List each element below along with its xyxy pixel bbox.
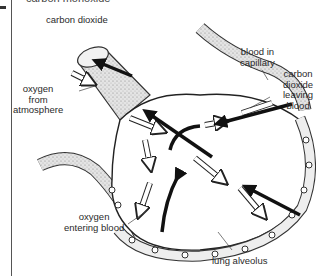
label-carbon-dioxide: carbon dioxide xyxy=(46,15,108,26)
label-co2-leaving-blood: carbon dioxide leaving blood xyxy=(283,69,313,111)
label-oxygen-from-atmosphere: oxygen from atmosphere xyxy=(13,84,63,116)
label-lung-alveolus: lung alveolus xyxy=(212,256,267,267)
label-blood-in-capillary: blood in capillary xyxy=(240,47,275,68)
alveolus-gas-exchange-diagram xyxy=(0,0,316,276)
label-oxygen-entering-blood: oxygen entering blood xyxy=(64,212,124,233)
